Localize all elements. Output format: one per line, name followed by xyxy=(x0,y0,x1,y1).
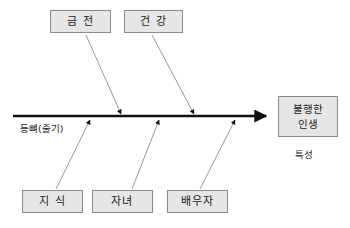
cause-label-health: 건 강 xyxy=(140,15,167,29)
fishbone-diagram: 금 전 건 강 지 식 자녀 배우자 불행한 인생 등뼈(줄기) 특성 xyxy=(0,0,350,228)
effect-label-line2: 인생 xyxy=(298,117,318,131)
cause-box-knowledge[interactable]: 지 식 xyxy=(22,190,83,213)
branch-line-health xyxy=(152,35,194,114)
branch-line-spouse xyxy=(200,120,235,189)
cause-box-children[interactable]: 자녀 xyxy=(92,190,153,213)
branch-line-children xyxy=(132,120,159,189)
cause-box-health[interactable]: 건 강 xyxy=(124,10,183,33)
effect-box[interactable]: 불행한 인생 xyxy=(278,96,338,137)
cause-label-knowledge: 지 식 xyxy=(39,195,66,209)
characteristic-label: 특성 xyxy=(295,147,313,161)
branch-line-money xyxy=(86,35,121,114)
spine-label: 등뼈(줄기) xyxy=(20,121,63,135)
cause-box-money[interactable]: 금 전 xyxy=(50,10,111,33)
cause-label-spouse: 배우자 xyxy=(181,195,215,209)
cause-box-spouse[interactable]: 배우자 xyxy=(167,190,228,213)
cause-label-children: 자녀 xyxy=(111,195,133,209)
cause-label-money: 금 전 xyxy=(67,15,94,29)
effect-label-line1: 불행한 xyxy=(293,102,323,116)
